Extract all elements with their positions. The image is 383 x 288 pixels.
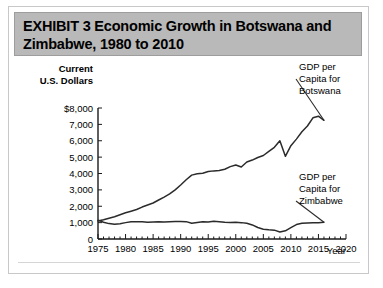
- x-axis-tick-label: 1975: [87, 243, 108, 254]
- y-axis-tick-label: 3,000: [69, 184, 93, 195]
- y-axis-tick-label: 1,000: [69, 217, 93, 228]
- page-title: EXHIBIT 3 Economic Growth in Botswana an…: [23, 17, 353, 53]
- botswana-label-line1: GDP per: [299, 61, 336, 72]
- x-axis-tick-labels: 1975198019851990199520002005201020152020: [87, 243, 356, 254]
- zimbabwe-label-line3: Zimbabwe: [299, 195, 343, 206]
- x-axis-tick-marks: [98, 234, 346, 239]
- y-axis-tick-label: $8,000: [64, 103, 93, 114]
- botswana-label-line3: Botswana: [299, 85, 341, 96]
- x-axis-tick-label: 1980: [115, 243, 136, 254]
- x-axis-tick-label: 2005: [253, 243, 274, 254]
- x-axis-tick-label: 1985: [143, 243, 164, 254]
- zimbabwe-label-line1: GDP per: [299, 171, 336, 182]
- y-axis-tick-label: 7,000: [69, 119, 93, 130]
- y-axis-tick-label: 2,000: [69, 201, 93, 212]
- x-axis-tick-label: 1995: [198, 243, 219, 254]
- line-chart: Current U.S. Dollars $8,0007,0006,0005,0…: [9, 56, 370, 256]
- series-line-botswana: [98, 116, 324, 221]
- chart-plot-area: Current U.S. Dollars $8,0007,0006,0005,0…: [9, 56, 370, 256]
- series-label-botswana: GDP per Capita for Botswana: [299, 61, 341, 96]
- zimbabwe-label-line2: Capita for: [299, 183, 340, 194]
- series-line-zimbabwe: [98, 220, 324, 232]
- botswana-label-line2: Capita for: [299, 73, 340, 84]
- y-axis-unit-line1: Current: [59, 63, 94, 74]
- x-axis-title: Year: [327, 245, 346, 256]
- y-axis-tick-label: 5,000: [69, 152, 93, 163]
- x-axis-tick-label: 1990: [170, 243, 191, 254]
- bottom-divider: [18, 262, 360, 263]
- y-axis-unit-line2: U.S. Dollars: [40, 75, 93, 86]
- y-axis-tick-label: 4,000: [69, 168, 93, 179]
- series-label-zimbabwe: GDP per Capita for Zimbabwe: [299, 171, 343, 206]
- y-axis-tick-labels: $8,0007,0006,0005,0004,0003,0002,0001,00…: [64, 103, 93, 245]
- y-axis-tick-label: 6,000: [69, 135, 93, 146]
- exhibit-frame: EXHIBIT 3 Economic Growth in Botswana an…: [8, 6, 369, 274]
- x-axis-tick-label: 2000: [225, 243, 246, 254]
- x-axis-tick-label: 2010: [280, 243, 301, 254]
- y-axis-unit-label: Current U.S. Dollars: [40, 63, 94, 86]
- exhibit-title-band: EXHIBIT 3 Economic Growth in Botswana an…: [14, 12, 362, 56]
